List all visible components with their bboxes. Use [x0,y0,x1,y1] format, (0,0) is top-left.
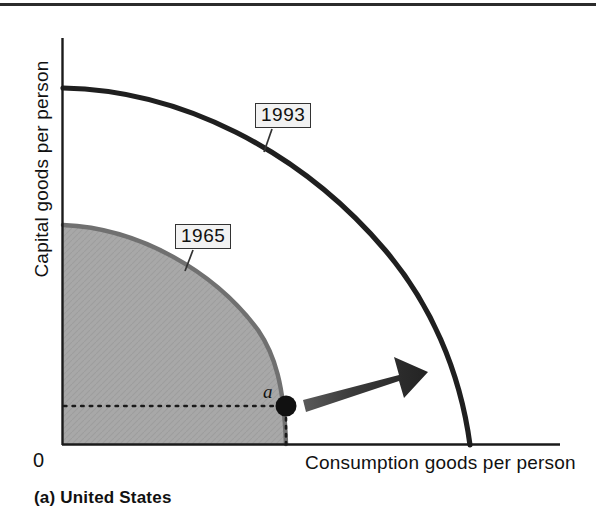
y-axis-title: Capital goods per person [31,49,53,289]
curve-label-1965: 1965 [175,224,231,249]
curve-label-1993: 1993 [255,103,311,128]
production-possibilities-figure: Capital goods per person Consumption goo… [0,0,596,519]
plot-canvas [0,0,596,519]
figure-caption: (a) United States [34,488,172,508]
point-a-marker [276,396,297,417]
point-a-label: a [263,381,273,403]
x-axis-title: Consumption goods per person [305,452,576,474]
origin-tick-label: 0 [33,449,44,472]
expansion-arrow-icon [303,357,428,412]
